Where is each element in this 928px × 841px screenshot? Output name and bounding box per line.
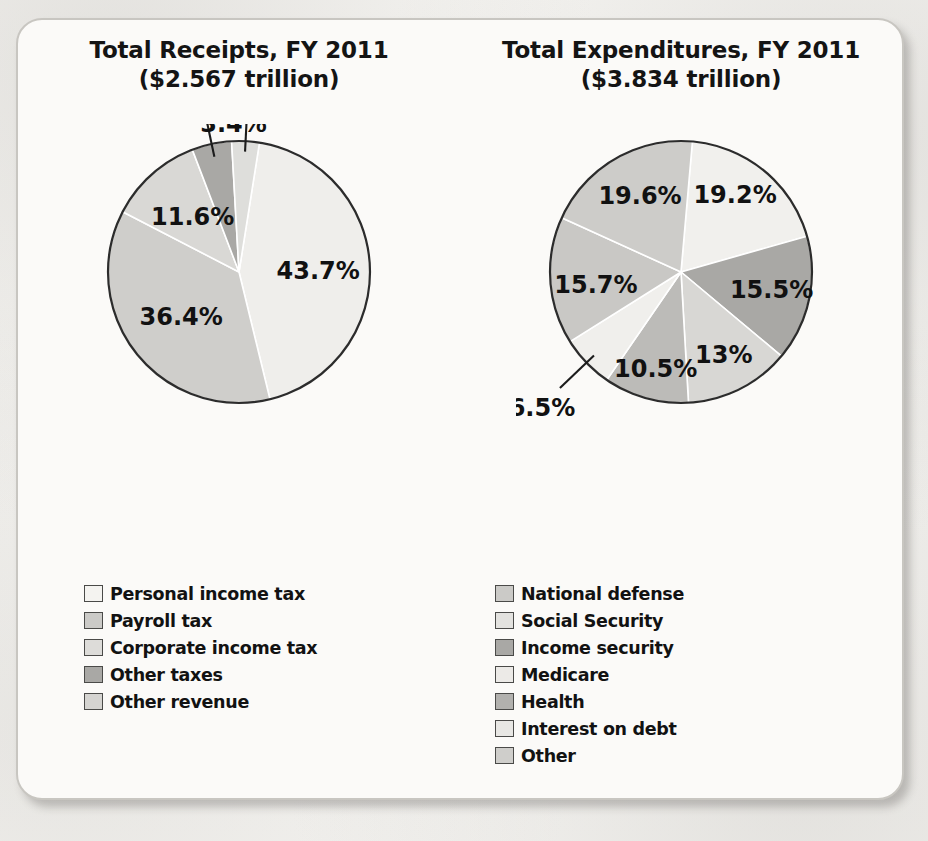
- pie-slice-label: 36.4%: [140, 303, 223, 331]
- receipts-swatch-icon: [84, 585, 103, 602]
- legend-item-label: Medicare: [521, 665, 609, 685]
- expenditures-swatch-icon: [495, 747, 514, 764]
- legend-item-label: Payroll tax: [110, 611, 212, 631]
- legend-item-label: Interest on debt: [521, 719, 677, 739]
- expenditures-swatch-icon: [495, 639, 514, 656]
- legend-item-label: Social Security: [521, 611, 663, 631]
- legend-item-label: Other revenue: [110, 692, 249, 712]
- pie-slice-label: 6.5%: [516, 394, 575, 422]
- legend-item[interactable]: Medicare: [495, 661, 684, 688]
- receipts-legend: Personal income taxPayroll taxCorporate …: [18, 580, 460, 715]
- pie-slice-label: 43.7%: [277, 257, 360, 285]
- legend-item-label: Corporate income tax: [110, 638, 317, 658]
- expenditures-title-line2: ($3.834 trillion): [460, 65, 902, 94]
- receipts-pie-chart: 43.7%36.4%11.6%4.9%3.4%: [74, 124, 404, 524]
- legend-item-label: Other: [521, 746, 576, 766]
- panels-container: Total Receipts, FY 2011 ($2.567 trillion…: [18, 20, 902, 798]
- legend-item[interactable]: Personal income tax: [84, 580, 317, 607]
- legend-item[interactable]: Corporate income tax: [84, 634, 317, 661]
- receipts-title-line2: ($2.567 trillion): [18, 65, 460, 94]
- legend-item[interactable]: Payroll tax: [84, 607, 317, 634]
- pie-slice-label: 11.6%: [151, 203, 234, 231]
- receipts-swatch-icon: [84, 666, 103, 683]
- legend-item-label: National defense: [521, 584, 684, 604]
- expenditures-swatch-icon: [495, 720, 514, 737]
- legend-item[interactable]: Other revenue: [84, 688, 317, 715]
- pie-label-leader-line: [560, 355, 594, 388]
- legend-item[interactable]: Health: [495, 688, 684, 715]
- legend-item[interactable]: Income security: [495, 634, 684, 661]
- pie-slice-label: 15.7%: [554, 271, 637, 299]
- legend-item[interactable]: Interest on debt: [495, 715, 684, 742]
- pie-slice-label: 10.5%: [614, 355, 697, 383]
- expenditures-pie-wrap: 19.2%15.5%13%10.5%6.5%15.7%19.6%: [460, 124, 902, 524]
- legend-item[interactable]: Other: [495, 742, 684, 769]
- legend-item-label: Income security: [521, 638, 674, 658]
- legend-item[interactable]: Other taxes: [84, 661, 317, 688]
- receipts-legend-list: Personal income taxPayroll taxCorporate …: [84, 580, 317, 715]
- receipts-pie-wrap: 43.7%36.4%11.6%4.9%3.4%: [18, 124, 460, 524]
- legend-item-label: Other taxes: [110, 665, 223, 685]
- pie-slice-label: 15.5%: [730, 276, 813, 304]
- expenditures-swatch-icon: [495, 666, 514, 683]
- receipts-swatch-icon: [84, 693, 103, 710]
- expenditures-swatch-icon: [495, 693, 514, 710]
- expenditures-title-line1: Total Expenditures, FY 2011: [502, 37, 860, 63]
- pie-slice-label: 13%: [695, 341, 752, 369]
- receipts-title: Total Receipts, FY 2011 ($2.567 trillion…: [18, 36, 460, 94]
- receipts-swatch-icon: [84, 612, 103, 629]
- pie-slice-label: 19.6%: [598, 182, 681, 210]
- panel-expenditures: Total Expenditures, FY 2011 ($3.834 tril…: [460, 20, 902, 798]
- receipts-swatch-icon: [84, 639, 103, 656]
- legend-item[interactable]: Social Security: [495, 607, 684, 634]
- figure-card: Total Receipts, FY 2011 ($2.567 trillion…: [16, 18, 904, 800]
- legend-item-label: Health: [521, 692, 584, 712]
- expenditures-legend-list: National defenseSocial SecurityIncome se…: [495, 580, 684, 769]
- expenditures-title: Total Expenditures, FY 2011 ($3.834 tril…: [460, 36, 902, 94]
- pie-slice-label: 19.2%: [693, 181, 776, 209]
- expenditures-pie-chart: 19.2%15.5%13%10.5%6.5%15.7%19.6%: [516, 124, 846, 524]
- receipts-title-line1: Total Receipts, FY 2011: [90, 37, 389, 63]
- expenditures-swatch-icon: [495, 585, 514, 602]
- legend-item[interactable]: National defense: [495, 580, 684, 607]
- pie-slice-label: 3.4%: [200, 124, 267, 138]
- panel-receipts: Total Receipts, FY 2011 ($2.567 trillion…: [18, 20, 460, 798]
- expenditures-swatch-icon: [495, 612, 514, 629]
- legend-item-label: Personal income tax: [110, 584, 305, 604]
- expenditures-legend: National defenseSocial SecurityIncome se…: [460, 580, 902, 769]
